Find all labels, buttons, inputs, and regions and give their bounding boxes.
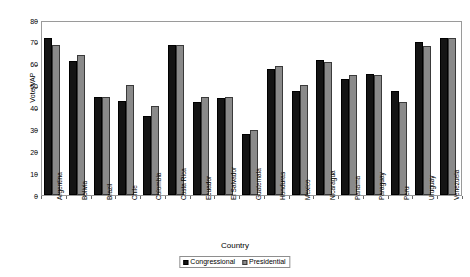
y-tick-mark <box>35 21 38 22</box>
x-label-nicaragua: Nicaragua <box>329 170 336 200</box>
x-label-venezuela: Venezuela <box>453 170 460 200</box>
bar-group <box>141 22 166 195</box>
x-label-ecuador: Ecuador <box>205 176 212 200</box>
bar-congressional-nicaragua <box>316 60 324 195</box>
bar-congressional-costa-rica <box>168 45 176 196</box>
bar-congressional-paraguay <box>366 74 374 195</box>
x-label-bolivia: Bolivia <box>81 181 88 200</box>
x-label-colombia: Colombia <box>155 173 162 200</box>
x-tick-mark <box>462 196 463 199</box>
bar-group <box>67 22 92 195</box>
bar-presidential-brazil <box>102 97 110 195</box>
bar-congressional-el-salvador <box>217 98 225 195</box>
x-label-brazil: Brazil <box>106 184 113 200</box>
bar-group <box>389 22 414 195</box>
y-tick-mark <box>35 174 38 175</box>
bar-group <box>364 22 389 195</box>
bar-chart: Vote/VAP 01020304050607080 ArgentinaBoli… <box>0 0 470 277</box>
bar-congressional-peru <box>391 91 399 195</box>
x-label-argentina: Argentina <box>56 172 63 200</box>
bar-congressional-guatemala <box>242 134 250 195</box>
bar-congressional-mexico <box>292 91 300 195</box>
y-tick-mark <box>35 152 38 153</box>
bar-group <box>339 22 364 195</box>
x-label-paraguay: Paraguay <box>378 172 385 200</box>
bar-congressional-panama <box>341 79 349 195</box>
chart-legend: CongressionalPresidential <box>179 256 290 268</box>
x-label-mexico: Mexico <box>304 179 311 200</box>
y-tick-mark <box>35 87 38 88</box>
x-label-honduras: Honduras <box>279 172 286 200</box>
bar-congressional-colombia <box>143 116 151 195</box>
bar-presidential-peru <box>399 102 407 195</box>
y-tick-mark <box>35 43 38 44</box>
x-label-peru: Peru <box>403 186 410 200</box>
bars-container <box>42 22 461 195</box>
y-tick-mark <box>35 109 38 110</box>
bar-congressional-ecuador <box>193 102 201 195</box>
bar-presidential-chile <box>126 85 134 195</box>
x-axis-title: Country <box>0 241 470 250</box>
bar-congressional-brazil <box>94 97 102 195</box>
bar-group <box>265 22 290 195</box>
y-tick-mark <box>35 65 38 66</box>
bar-congressional-honduras <box>267 69 275 195</box>
bar-congressional-venezuela <box>440 38 448 195</box>
bar-group <box>413 22 438 195</box>
x-label-guatemala: Guatemala <box>255 168 262 200</box>
legend-label: Presidential <box>249 258 286 266</box>
x-label-el-salvador: El Salvador <box>230 167 237 200</box>
bar-presidential-uruguay <box>423 46 431 195</box>
bar-group <box>191 22 216 195</box>
black-square-icon <box>183 260 188 265</box>
bar-group <box>116 22 141 195</box>
plot-area <box>41 21 462 196</box>
bar-congressional-chile <box>118 101 126 195</box>
legend-item-congressional[interactable]: Congressional <box>183 258 235 266</box>
gray-square-icon <box>242 260 247 265</box>
bar-congressional-uruguay <box>415 42 423 195</box>
x-label-panama: Panama <box>354 176 361 200</box>
y-tick-mark <box>35 196 38 197</box>
x-label-costa-rica: Costa Rica <box>180 168 187 200</box>
bar-group <box>290 22 315 195</box>
y-tick-mark <box>35 130 38 131</box>
bar-presidential-bolivia <box>77 55 85 195</box>
bar-group <box>92 22 117 195</box>
bar-congressional-argentina <box>44 38 52 195</box>
legend-label: Congressional <box>190 258 235 266</box>
bar-group <box>42 22 67 195</box>
x-label-chile: Chile <box>131 185 138 200</box>
bar-congressional-bolivia <box>69 61 77 195</box>
x-label-uruguay: Uruguay <box>428 175 435 200</box>
y-axis-tick-labels: 01020304050607080 <box>18 0 38 277</box>
legend-item-presidential[interactable]: Presidential <box>242 258 286 266</box>
